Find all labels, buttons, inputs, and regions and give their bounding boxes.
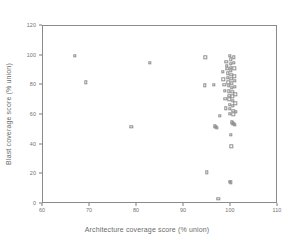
data-point bbox=[233, 79, 236, 82]
data-point bbox=[232, 61, 235, 64]
x-axis-tick-label: 60 bbox=[39, 207, 45, 213]
x-axis-tick-label: 100 bbox=[225, 207, 234, 213]
y-axis-tick-label: 120 bbox=[27, 22, 36, 28]
data-point bbox=[232, 55, 235, 58]
data-point bbox=[73, 54, 76, 57]
data-point bbox=[222, 78, 225, 81]
data-point bbox=[234, 101, 237, 104]
y-axis-tick-label: 0 bbox=[33, 200, 36, 206]
data-point bbox=[233, 67, 236, 70]
x-axis-tick bbox=[230, 203, 231, 206]
data-point bbox=[231, 104, 234, 107]
y-axis-tick-label: 20 bbox=[30, 170, 36, 176]
y-axis-label: Blast coverage score (% union) bbox=[5, 63, 12, 165]
data-point bbox=[233, 85, 236, 88]
y-axis-tick-label: 40 bbox=[30, 141, 36, 147]
y-axis-tick bbox=[39, 25, 42, 26]
plot-frame bbox=[42, 25, 277, 203]
data-point bbox=[234, 110, 237, 113]
y-axis-tick bbox=[39, 114, 42, 115]
data-point bbox=[233, 75, 236, 78]
x-axis-tick bbox=[89, 203, 90, 206]
plot-area bbox=[43, 26, 276, 202]
data-point bbox=[130, 125, 133, 128]
y-axis-tick bbox=[39, 143, 42, 144]
x-axis-tick-label: 80 bbox=[133, 207, 139, 213]
data-point bbox=[212, 83, 215, 86]
x-axis-tick-label: 110 bbox=[273, 207, 282, 213]
x-axis-label: Architecture coverage score (% union) bbox=[0, 226, 294, 233]
data-point bbox=[203, 84, 206, 87]
data-point bbox=[229, 133, 232, 136]
y-axis-tick bbox=[39, 84, 42, 85]
x-axis-tick-label: 70 bbox=[86, 207, 92, 213]
data-point bbox=[215, 126, 218, 129]
y-axis-tick bbox=[39, 173, 42, 174]
x-axis-tick-label: 90 bbox=[180, 207, 186, 213]
data-point bbox=[217, 197, 220, 200]
y-axis-tick bbox=[39, 54, 42, 55]
data-point bbox=[205, 170, 208, 173]
x-axis-tick bbox=[277, 203, 278, 206]
data-point bbox=[148, 61, 151, 64]
y-axis-tick bbox=[39, 203, 42, 204]
data-point bbox=[221, 70, 224, 73]
scatter-plot-figure: 60708090100110020406080100120 Architectu… bbox=[0, 0, 294, 248]
data-point bbox=[234, 93, 237, 96]
data-point bbox=[233, 123, 236, 126]
y-axis-tick-label: 80 bbox=[30, 81, 36, 87]
x-axis-tick bbox=[183, 203, 184, 206]
data-point bbox=[225, 60, 228, 63]
y-axis-tick-label: 100 bbox=[27, 52, 36, 58]
data-point bbox=[229, 181, 232, 184]
data-point bbox=[218, 114, 221, 117]
y-axis-tick-label: 60 bbox=[30, 111, 36, 117]
data-point bbox=[203, 55, 206, 58]
data-point bbox=[230, 144, 233, 147]
x-axis-tick bbox=[136, 203, 137, 206]
data-point bbox=[84, 81, 87, 84]
